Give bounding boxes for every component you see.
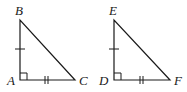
vertex-label-e: E — [108, 3, 117, 18]
triangle-def: E D F — [98, 3, 183, 88]
right-angle-marker-d — [114, 73, 121, 80]
congruent-triangles-diagram: B A C E D F — [0, 0, 187, 92]
vertex-label-f: F — [173, 73, 183, 88]
vertex-label-b: B — [15, 3, 23, 18]
vertex-label-d: D — [98, 73, 109, 88]
vertex-label-a: A — [6, 73, 15, 88]
vertex-label-c: C — [79, 73, 88, 88]
right-angle-marker-a — [20, 73, 27, 80]
triangle-abc: B A C — [6, 3, 88, 88]
triangle-abc-outline — [20, 20, 75, 80]
triangle-def-outline — [114, 20, 170, 80]
